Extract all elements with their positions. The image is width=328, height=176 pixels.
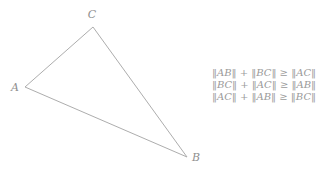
- triangle-edge-AC: [25, 27, 93, 87]
- inequality-line-1: ‖AB‖ + ‖BC‖ ≥ ‖AC‖: [202, 67, 326, 79]
- triangle-edge-CB: [93, 27, 187, 157]
- vertex-label-C: C: [88, 8, 97, 21]
- vertex-label-B: B: [191, 151, 200, 164]
- inequality-line-2: ‖BC‖ + ‖AC‖ ≥ ‖AB‖: [202, 79, 326, 91]
- triangle-edge-AB: [25, 87, 187, 157]
- diagram-canvas: ABC ‖AB‖ + ‖BC‖ ≥ ‖AC‖ ‖BC‖ + ‖AC‖ ≥ ‖AB…: [0, 0, 328, 176]
- inequalities-block: ‖AB‖ + ‖BC‖ ≥ ‖AC‖ ‖BC‖ + ‖AC‖ ≥ ‖AB‖ ‖A…: [202, 67, 326, 103]
- inequality-line-3: ‖AC‖ + ‖AB‖ ≥ ‖BC‖: [202, 91, 326, 103]
- vertex-label-A: A: [10, 81, 19, 94]
